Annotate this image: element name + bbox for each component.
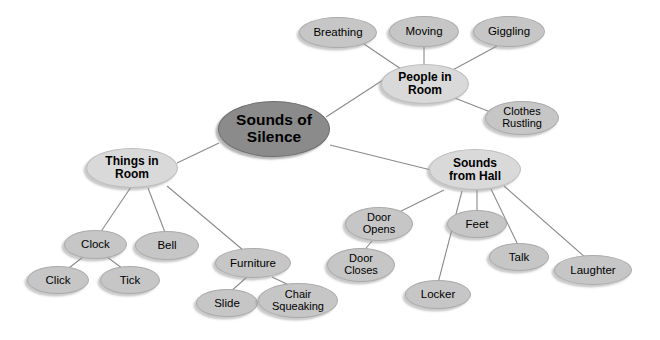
edge-things-clock [100,187,131,233]
edge-people-giggling [449,46,497,72]
node-laughter[interactable]: Laughter [554,255,632,285]
mind-map-diagram: Sounds of Silence People in Room Breathi… [0,0,660,340]
node-bell[interactable]: Bell [135,231,199,260]
edge-center-hall [330,145,431,170]
node-sounds-from-hall[interactable]: Sounds from Hall [429,149,521,190]
node-giggling[interactable]: Giggling [473,16,545,47]
node-people-in-room[interactable]: People in Room [381,64,469,104]
node-breathing[interactable]: Breathing [299,17,377,48]
node-sounds-of-silence[interactable]: Sounds of Silence [218,101,330,157]
node-moving[interactable]: Moving [389,16,459,47]
node-feet[interactable]: Feet [447,210,507,238]
edge-things-bell [148,188,166,235]
node-tick[interactable]: Tick [100,266,160,294]
node-door-opens[interactable]: Door Opens [345,207,413,241]
node-clothes-rustling[interactable]: Clothes Rustling [485,101,559,135]
node-things-in-room[interactable]: Things in Room [86,148,178,188]
node-chair-squeaking[interactable]: Chair Squeaking [258,283,338,318]
node-furniture[interactable]: Furniture [215,248,291,278]
edge-center-people [326,80,383,117]
edge-center-things [177,143,219,163]
edge-hall-locker [438,191,462,283]
node-slide[interactable]: Slide [196,289,258,317]
edge-people-breathing [364,44,401,69]
node-door-closes[interactable]: Door Closes [327,248,395,282]
node-talk[interactable]: Talk [489,243,549,271]
node-click[interactable]: Click [27,266,89,294]
node-clock[interactable]: Clock [64,230,127,259]
node-locker[interactable]: Locker [405,280,471,309]
